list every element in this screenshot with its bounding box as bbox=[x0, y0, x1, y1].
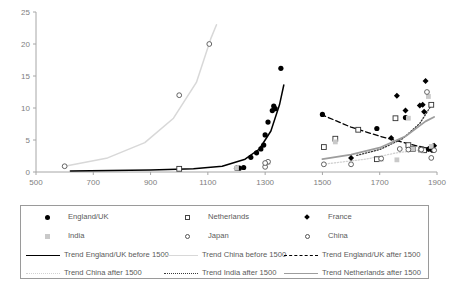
trend-line-dash-black-icon bbox=[283, 250, 319, 260]
marker-glyph bbox=[304, 214, 310, 220]
legend-label: India bbox=[67, 232, 84, 240]
series-china bbox=[62, 42, 267, 169]
legend-label: China bbox=[327, 232, 348, 240]
marker-glyph bbox=[45, 215, 50, 220]
legend-label: Trend England/UK after 1500 bbox=[321, 251, 421, 259]
chart-container: 051015202550070090011001300150017001900 … bbox=[0, 0, 449, 288]
legend-item-france[interactable]: France bbox=[289, 212, 352, 222]
y-tick-label: 20 bbox=[21, 40, 30, 49]
data-point bbox=[207, 42, 212, 47]
line-glyph bbox=[284, 255, 318, 256]
line-glyph bbox=[284, 273, 318, 274]
data-point bbox=[254, 150, 259, 155]
trend-line-solid-light-icon bbox=[163, 250, 199, 260]
legend-item-india[interactable]: India bbox=[29, 231, 84, 241]
marker-glyph bbox=[185, 234, 190, 239]
trend-line-dot-dark-icon bbox=[163, 268, 199, 278]
data-point bbox=[321, 145, 326, 150]
legend-label: Netherlands bbox=[207, 213, 249, 221]
data-point bbox=[234, 166, 239, 171]
legend-item-china[interactable]: China bbox=[289, 231, 348, 241]
x-tick-label: 500 bbox=[29, 178, 43, 187]
square-gray-marker-icon bbox=[29, 231, 65, 241]
y-tick-label: 25 bbox=[21, 8, 30, 17]
data-point bbox=[406, 116, 411, 121]
data-point bbox=[374, 126, 379, 131]
data-point bbox=[248, 155, 253, 160]
series-england-uk bbox=[234, 66, 435, 171]
y-tick-label: 5 bbox=[26, 136, 31, 145]
legend-item-japan[interactable]: Japan bbox=[169, 231, 229, 241]
data-point bbox=[395, 157, 400, 162]
data-point bbox=[333, 140, 338, 145]
trend-line bbox=[65, 25, 217, 166]
legend-label: Trend China before 1500 bbox=[201, 251, 286, 259]
legend-item-netherlands[interactable]: Netherlands bbox=[169, 212, 249, 222]
data-point bbox=[423, 78, 429, 84]
legend-label: Trend England/UK before 1500 bbox=[63, 251, 169, 259]
legend-item-trend-china-after-1500[interactable]: Trend China after 1500 bbox=[25, 268, 142, 278]
series-india bbox=[234, 94, 434, 170]
data-point bbox=[419, 147, 424, 152]
marker-glyph bbox=[305, 234, 310, 239]
data-point bbox=[62, 164, 67, 169]
line-glyph bbox=[26, 273, 60, 274]
legend-item-trend-netherlands-after-1500[interactable]: Trend Netherlands after 1500 bbox=[283, 268, 421, 278]
data-point bbox=[273, 106, 278, 111]
data-point bbox=[241, 165, 246, 170]
data-point bbox=[263, 161, 268, 166]
chart-legend: England/UKNetherlandsFranceIndiaJapanChi… bbox=[20, 205, 429, 279]
square-open-marker-icon bbox=[169, 212, 205, 222]
trend-line-solid-gray-icon bbox=[283, 268, 319, 278]
y-tick-label: 0 bbox=[26, 168, 31, 177]
x-tick-label: 1500 bbox=[314, 178, 332, 187]
data-point bbox=[321, 162, 326, 167]
marker-glyph bbox=[45, 234, 50, 239]
legend-item-trend-india-after-1500[interactable]: Trend India after 1500 bbox=[163, 268, 276, 278]
legend-label: England/UK bbox=[67, 213, 109, 221]
y-tick-label: 10 bbox=[21, 104, 30, 113]
trend-line-dot-light-icon bbox=[25, 268, 61, 278]
legend-label: Japan bbox=[207, 232, 229, 240]
data-point bbox=[379, 156, 384, 161]
legend-label: Trend India after 1500 bbox=[201, 269, 276, 277]
legend-label: Trend Netherlands after 1500 bbox=[321, 269, 421, 277]
legend-item-trend-england-uk-after-1500[interactable]: Trend England/UK after 1500 bbox=[283, 250, 421, 260]
line-glyph bbox=[26, 255, 60, 256]
x-tick-label: 1100 bbox=[199, 178, 217, 187]
legend-item-england-uk[interactable]: England/UK bbox=[29, 212, 109, 222]
data-point bbox=[261, 143, 266, 148]
data-point bbox=[429, 102, 434, 107]
data-point bbox=[265, 119, 270, 124]
x-tick-label: 900 bbox=[144, 178, 158, 187]
x-tick-label: 1700 bbox=[371, 178, 389, 187]
x-tick-label: 700 bbox=[87, 178, 101, 187]
trend-line-solid-black-icon bbox=[25, 250, 61, 260]
circle-filled-marker-icon bbox=[29, 212, 65, 222]
legend-item-trend-china-before-1500[interactable]: Trend China before 1500 bbox=[163, 250, 286, 260]
circle-open-marker-icon bbox=[169, 231, 205, 241]
x-tick-label: 1300 bbox=[256, 178, 274, 187]
data-point bbox=[263, 132, 268, 137]
data-point bbox=[320, 112, 325, 117]
x-tick-label: 1900 bbox=[428, 178, 446, 187]
data-point bbox=[177, 166, 182, 171]
data-point bbox=[177, 93, 182, 98]
data-point bbox=[429, 156, 434, 161]
data-point bbox=[349, 162, 354, 167]
line-glyph bbox=[164, 255, 198, 256]
line-glyph bbox=[164, 273, 198, 274]
circle-open-marker-icon bbox=[289, 231, 325, 241]
data-point bbox=[356, 127, 361, 132]
data-point bbox=[278, 66, 283, 71]
data-point bbox=[393, 116, 398, 121]
diamond-filled-marker-icon bbox=[289, 212, 325, 222]
trend-line bbox=[322, 117, 434, 159]
data-point bbox=[394, 93, 400, 99]
data-point bbox=[402, 108, 408, 114]
legend-label: Trend China after 1500 bbox=[63, 269, 142, 277]
data-point bbox=[406, 147, 411, 152]
legend-item-trend-england-uk-before-1500[interactable]: Trend England/UK before 1500 bbox=[25, 250, 169, 260]
data-point bbox=[397, 147, 402, 152]
data-point bbox=[432, 148, 437, 153]
